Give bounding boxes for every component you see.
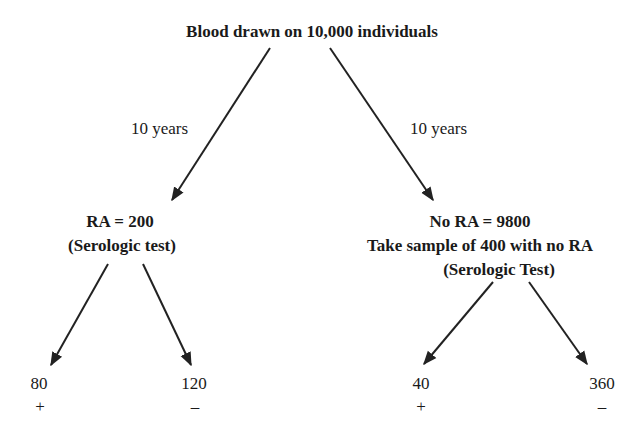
- leaf-value-nora-positive: 40: [413, 374, 430, 394]
- left-edge-label: 10 years: [131, 119, 188, 139]
- right-node-sample: Take sample of 400 with no RA: [367, 236, 593, 256]
- root-node-label: Blood drawn on 10,000 individuals: [186, 22, 438, 42]
- leaf-sign-ra-positive: +: [35, 397, 45, 417]
- right-node-subtitle: (Serologic Test): [443, 260, 555, 280]
- leaf-value-nora-negative: 360: [589, 374, 615, 394]
- right-node-title: No RA = 9800: [430, 212, 531, 232]
- leaf-value-ra-positive: 80: [31, 374, 48, 394]
- right-edge-label: 10 years: [410, 119, 467, 139]
- leaf-sign-nora-positive: +: [416, 397, 426, 417]
- left-node-title: RA = 200: [86, 212, 153, 232]
- arrow-left-neg: [143, 264, 191, 365]
- arrow-left-pos: [51, 264, 108, 365]
- leaf-value-ra-negative: 120: [181, 374, 207, 394]
- leaf-sign-ra-negative: –: [191, 397, 200, 417]
- arrow-right-neg: [529, 282, 587, 364]
- leaf-sign-nora-negative: –: [598, 397, 607, 417]
- left-node-subtitle: (Serologic test): [68, 236, 176, 256]
- arrow-right-pos: [424, 282, 493, 364]
